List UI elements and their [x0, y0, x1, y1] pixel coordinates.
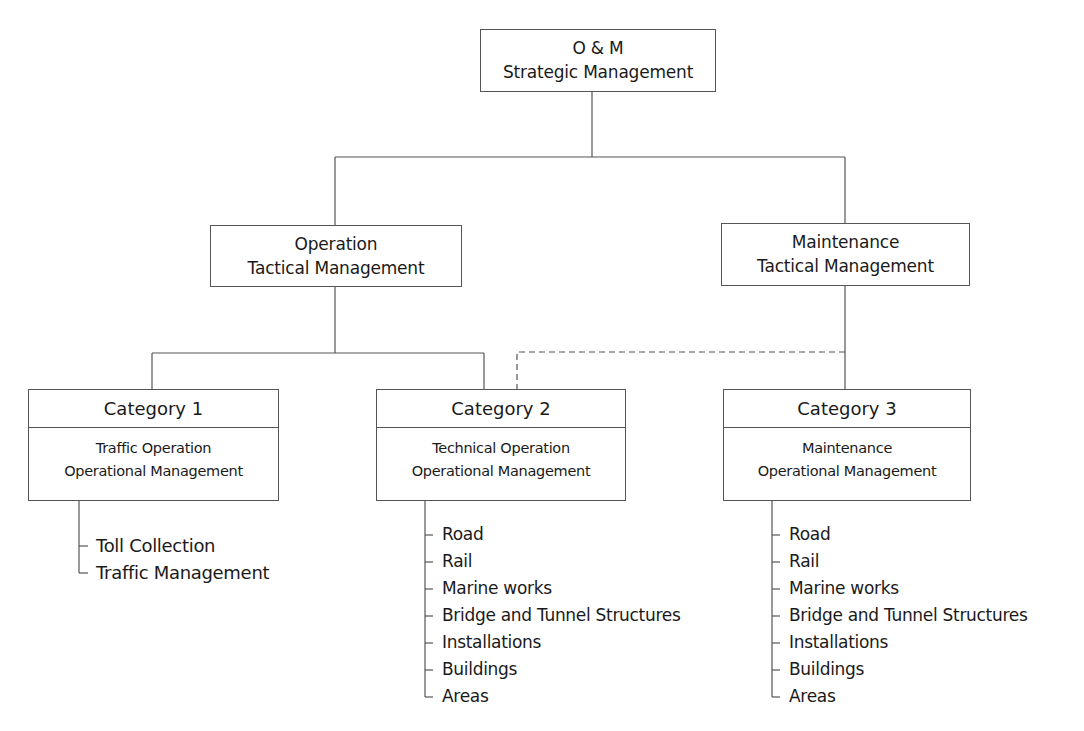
list-item: Traffic Management	[96, 559, 269, 586]
root-line2: Strategic Management	[481, 60, 715, 84]
category-1-title: Category 1	[29, 390, 278, 428]
list-item: Marine works	[789, 575, 1027, 602]
category-1-line2: Operational Management	[29, 460, 278, 483]
maintenance-line1: Maintenance	[722, 230, 969, 254]
category-3-title: Category 3	[724, 390, 970, 428]
node-operation-tactical: Operation Tactical Management	[210, 225, 462, 287]
list-item: Road	[789, 521, 1027, 548]
list-item: Areas	[442, 683, 680, 710]
dashed-link-maintenance-cat2	[517, 352, 845, 389]
node-category-2: Category 2 Technical Operation Operation…	[376, 389, 626, 501]
list-item: Bridge and Tunnel Structures	[789, 602, 1027, 629]
category-2-title: Category 2	[377, 390, 625, 428]
node-category-3: Category 3 Maintenance Operational Manag…	[723, 389, 971, 501]
maintenance-line2: Tactical Management	[722, 254, 969, 278]
category-3-line1: Maintenance	[724, 437, 970, 460]
category-3-line2: Operational Management	[724, 460, 970, 483]
list-item: Areas	[789, 683, 1027, 710]
category-1-items: Toll Collection Traffic Management	[96, 532, 269, 586]
list-item: Toll Collection	[96, 532, 269, 559]
list-item: Buildings	[442, 656, 680, 683]
list-item: Rail	[442, 548, 680, 575]
root-node-strategic-management: O & M Strategic Management	[480, 29, 716, 92]
category-2-line2: Operational Management	[377, 460, 625, 483]
list-item: Road	[442, 521, 680, 548]
category-1-line1: Traffic Operation	[29, 437, 278, 460]
category-2-line1: Technical Operation	[377, 437, 625, 460]
node-category-1: Category 1 Traffic Operation Operational…	[28, 389, 279, 501]
list-item: Installations	[442, 629, 680, 656]
operation-line2: Tactical Management	[211, 256, 461, 280]
list-item: Installations	[789, 629, 1027, 656]
list-item: Rail	[789, 548, 1027, 575]
list-item: Marine works	[442, 575, 680, 602]
list-item: Buildings	[789, 656, 1027, 683]
category-3-items: Road Rail Marine works Bridge and Tunnel…	[789, 521, 1027, 710]
node-maintenance-tactical: Maintenance Tactical Management	[721, 223, 970, 286]
list-item: Bridge and Tunnel Structures	[442, 602, 680, 629]
category-2-items: Road Rail Marine works Bridge and Tunnel…	[442, 521, 680, 710]
root-line1: O & M	[481, 36, 715, 60]
operation-line1: Operation	[211, 232, 461, 256]
